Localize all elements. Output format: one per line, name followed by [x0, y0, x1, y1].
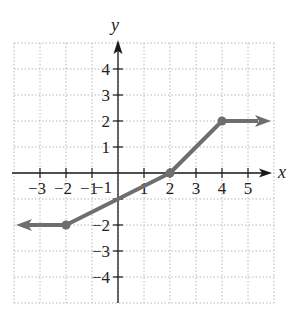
x-tick-label: 5 [244, 179, 253, 198]
y-tick-label: 3 [102, 86, 111, 105]
closed-point [62, 221, 71, 230]
x-tick-label: 2 [166, 179, 175, 198]
x-tick-label: −3 [28, 179, 46, 198]
y-tick-label: 4 [102, 60, 111, 79]
closed-point [218, 117, 227, 126]
y-tick-label: −1 [94, 178, 112, 197]
y-tick-label: −3 [92, 242, 110, 261]
y-axis-label: y [109, 15, 119, 35]
x-axis-label: x [277, 162, 286, 182]
y-tick-label: −4 [92, 268, 111, 287]
graph: −3−2−1123454321−2−3−4−1 x y [0, 0, 288, 310]
axes [12, 40, 272, 303]
x-tick-label: −2 [54, 179, 72, 198]
x-tick-label: 3 [192, 179, 201, 198]
y-tick-label: 2 [102, 112, 111, 131]
y-tick-label: 1 [102, 138, 111, 157]
closed-point [166, 169, 175, 178]
x-tick-label: 4 [218, 179, 227, 198]
y-tick-label: −2 [92, 216, 110, 235]
